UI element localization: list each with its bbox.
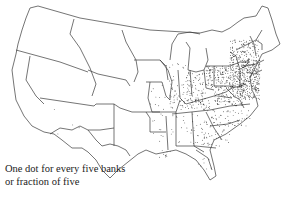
state-outlines (12, 6, 280, 180)
legend-line-1: One dot for every five banks (5, 163, 125, 176)
map-legend-caption: One dot for every five banks or fraction… (5, 163, 125, 188)
legend-line-2: or fraction of five (5, 176, 125, 189)
us-outline (12, 6, 280, 180)
